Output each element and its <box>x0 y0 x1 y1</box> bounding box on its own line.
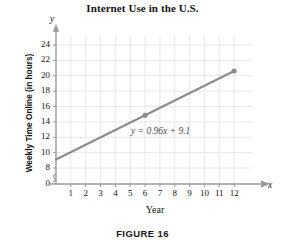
x-tick-label: 6 <box>137 188 153 198</box>
equation-annotation: y = 0.96x + 9.1 <box>131 126 190 136</box>
y-tick-label: 8 <box>34 162 50 172</box>
y-tick-label: 20 <box>34 70 50 80</box>
x-tick-label: 5 <box>122 188 138 198</box>
x-tick-label: 7 <box>152 188 168 198</box>
y-tick-label: 12 <box>34 131 50 141</box>
y-tick-label: 14 <box>34 116 50 126</box>
y-origin-label: 0 <box>34 178 50 188</box>
y-tick-label: 22 <box>34 54 50 64</box>
data-point <box>142 113 147 118</box>
data-point <box>232 68 237 73</box>
x-tick-label: 4 <box>107 188 123 198</box>
y-tick-label: 24 <box>34 39 50 49</box>
figure-container: Internet Use in the U.S. Weekly Time Onl… <box>0 0 285 248</box>
x-tick-label: 2 <box>78 188 94 198</box>
x-tick-label: 1 <box>63 188 79 198</box>
x-tick-label: 3 <box>93 188 109 198</box>
vertical-gridlines <box>71 36 234 184</box>
x-tick-label: 12 <box>226 188 242 198</box>
x-tick-label: 9 <box>182 188 198 198</box>
y-tick-label: 16 <box>34 101 50 111</box>
x-tick-label: 10 <box>196 188 212 198</box>
y-axis-arrow <box>53 24 59 32</box>
y-tick-label: 18 <box>34 85 50 95</box>
figure-caption: FIGURE 16 <box>0 228 285 239</box>
y-tick-label: 10 <box>34 147 50 157</box>
x-axis-arrow <box>261 181 270 188</box>
x-tick-label: 11 <box>211 188 227 198</box>
x-tick-label: 8 <box>167 188 183 198</box>
